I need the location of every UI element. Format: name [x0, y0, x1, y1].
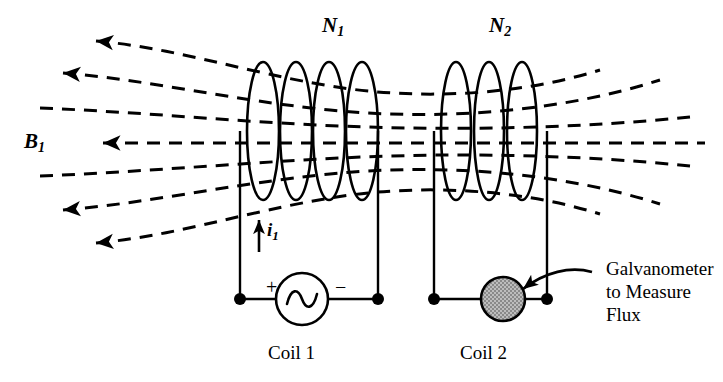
coil1-turns-subscript: 1: [337, 24, 344, 39]
galvanometer-caption-line1: Galvanometer: [606, 258, 714, 280]
coil2-turn-1: [441, 62, 471, 200]
flux-line-top-3: [40, 108, 690, 128]
coil1-turn-1: [247, 62, 279, 200]
coil2-left-terminal: [428, 293, 440, 305]
coil1-turns-label: N1: [322, 14, 344, 40]
flux-line-top-2: [63, 73, 660, 114]
coil1-right-terminal: [372, 293, 384, 305]
coil2-windings: [441, 62, 537, 200]
magnetic-field-subscript: 1: [38, 140, 45, 155]
flux-line-group: [40, 41, 705, 243]
flux-line-top-1: [96, 41, 600, 94]
flux-line-bottom-3: [40, 155, 690, 176]
galvanometer[interactable]: [481, 277, 525, 321]
coil2-turn-2: [474, 62, 504, 200]
galvanometer-body: [481, 277, 525, 321]
current-subscript: 1: [272, 228, 279, 243]
coil2-turn-3: [507, 62, 537, 200]
ac-source[interactable]: [276, 273, 328, 325]
coil1-turns-symbol: N: [322, 13, 337, 37]
coil1-turn-3: [313, 62, 345, 200]
coil2-right-terminal: [541, 293, 553, 305]
coil1-turn-2: [280, 62, 312, 200]
galvanometer-caption-line3: Flux: [606, 304, 641, 326]
galvanometer-callout-arrow: [523, 270, 592, 289]
coil2-turns-subscript: 2: [504, 24, 511, 39]
coil2-turns-label: N2: [489, 14, 511, 40]
coil1-left-terminal: [234, 293, 246, 305]
coil2-caption: Coil 2: [460, 342, 507, 363]
magnetic-field-label: B1: [24, 130, 45, 156]
coil2-turns-symbol: N: [489, 13, 504, 37]
magnetic-field-symbol: B: [24, 129, 38, 153]
galvanometer-caption-line2: to Measure: [606, 281, 691, 303]
coil1-turn-4: [346, 62, 378, 200]
current-label: i1: [267, 219, 279, 243]
source-negative-terminal-label: −: [335, 276, 346, 298]
figure-root: N1 N2 B1 i1 + − Coil 1 Coil 2 Galvanomet…: [0, 0, 723, 382]
coil1-caption: Coil 1: [268, 342, 315, 363]
source-positive-terminal-label: +: [266, 276, 277, 298]
flux-line-bottom-2: [63, 170, 660, 210]
